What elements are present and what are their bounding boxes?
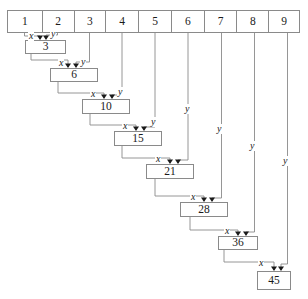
wire-9: [178, 33, 188, 163]
index-cell-6: 6: [172, 11, 205, 32]
port-label-y: y: [150, 117, 156, 127]
index-cell-5: 5: [139, 11, 172, 32]
sum-box-36: 36: [218, 236, 258, 250]
port-label-y: y: [216, 124, 222, 134]
wire-12: [190, 217, 238, 235]
port-label-x: x: [224, 226, 230, 236]
index-cell-2: 2: [43, 11, 75, 32]
port-label-x: x: [28, 31, 34, 41]
sum-box-45: 45: [257, 271, 291, 290]
wire-8: [122, 146, 170, 163]
port-label-y: y: [80, 57, 86, 67]
sum-box-15: 15: [114, 131, 162, 146]
sum-box-6: 6: [50, 68, 98, 82]
sum-box-21: 21: [146, 164, 194, 179]
wire-15: [281, 33, 288, 270]
port-label-x: x: [258, 258, 264, 268]
port-label-x: x: [190, 192, 196, 202]
wire-10: [155, 179, 204, 201]
diagram-canvas: 123456789 36101521283645 xyxyxyxyxyxyxyx…: [0, 0, 308, 299]
sum-box-10: 10: [82, 99, 130, 114]
port-label-x: x: [90, 89, 96, 99]
port-label-x: x: [155, 154, 161, 164]
index-cell-9: 9: [269, 11, 299, 32]
wire-13: [246, 33, 255, 235]
port-label-x: x: [122, 121, 128, 131]
index-cell-8: 8: [237, 11, 269, 32]
port-label-x: x: [58, 58, 64, 68]
index-cell-7: 7: [205, 11, 238, 32]
sum-box-3: 3: [25, 40, 66, 54]
index-cell-4: 4: [106, 11, 139, 32]
port-label-y: y: [117, 87, 123, 97]
wire-11: [212, 33, 222, 201]
sum-box-28: 28: [180, 202, 228, 217]
wire-14: [224, 250, 274, 270]
wire-4: [58, 82, 104, 98]
index-cell-1: 1: [8, 11, 43, 32]
port-label-y: y: [249, 141, 255, 151]
port-label-y: y: [184, 104, 190, 114]
port-label-y: y: [282, 156, 288, 166]
port-label-y: y: [50, 29, 56, 39]
wire-6: [90, 114, 136, 130]
index-cell-3: 3: [75, 11, 107, 32]
